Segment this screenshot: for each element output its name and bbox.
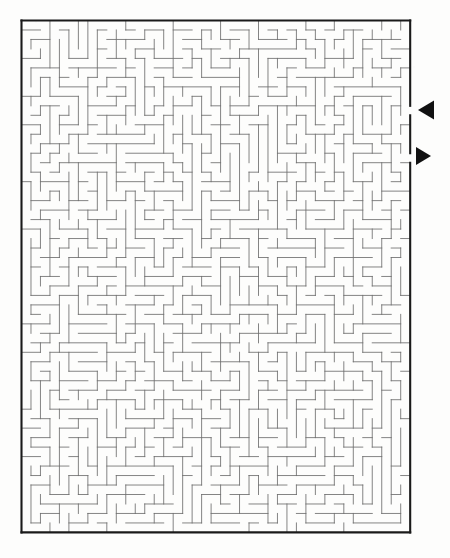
page-canvas <box>0 0 450 558</box>
entrance-arrow <box>418 101 434 120</box>
maze-interior-walls <box>22 21 411 533</box>
exit-arrow <box>416 147 431 165</box>
maze-figure <box>0 0 450 558</box>
maze-markers <box>416 101 434 166</box>
maze-graphic <box>0 0 450 558</box>
